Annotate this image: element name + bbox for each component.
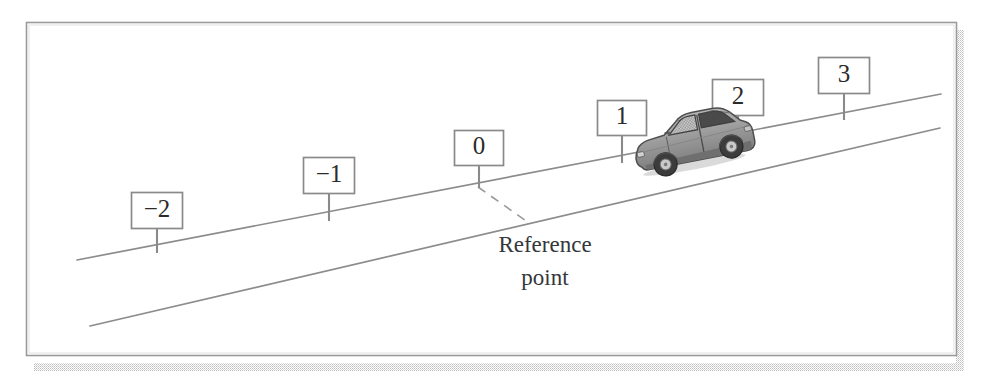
figure-root: −2 −1 0 1 2 3 xyxy=(0,0,1002,377)
figure-frame xyxy=(27,23,957,356)
sign-label: 2 xyxy=(732,82,745,109)
reference-point-caption-line1: Reference xyxy=(498,232,591,257)
sign-label: 3 xyxy=(838,60,851,87)
sign-label: −1 xyxy=(316,160,343,187)
sign-label: 1 xyxy=(616,102,629,129)
sign-label: −2 xyxy=(144,195,171,222)
reference-point-caption-line2: point xyxy=(521,265,569,290)
car-headlight xyxy=(637,151,645,157)
car-taillight xyxy=(744,125,752,131)
sign-label: 0 xyxy=(473,132,486,159)
inclined-road-diagram: −2 −1 0 1 2 3 xyxy=(0,0,1002,377)
